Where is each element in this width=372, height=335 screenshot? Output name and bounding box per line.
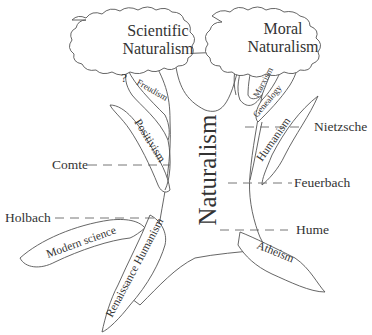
thinker-label-nietzsche: Nietzsche bbox=[314, 119, 367, 134]
thinker-label-comte: Comte bbox=[52, 157, 88, 172]
thinker-label-hume: Hume bbox=[296, 222, 329, 237]
question-mark-label: ? bbox=[121, 70, 127, 85]
cloud-label-moral-1: Moral bbox=[263, 20, 303, 37]
cloud-label-moral-2: Naturalism bbox=[247, 38, 319, 55]
thinker-label-feuerbach: Feuerbach bbox=[294, 175, 350, 190]
naturalism-tree-diagram: Scientific Naturalism Moral Naturalism N… bbox=[0, 0, 372, 335]
root-atheism bbox=[238, 232, 325, 292]
trunk-label: Naturalism bbox=[194, 114, 221, 226]
thinker-label-holbach: Holbach bbox=[5, 210, 51, 225]
cloud-label-scientific-1: Scientific bbox=[127, 22, 188, 39]
cloud-label-scientific-2: Naturalism bbox=[122, 40, 194, 57]
